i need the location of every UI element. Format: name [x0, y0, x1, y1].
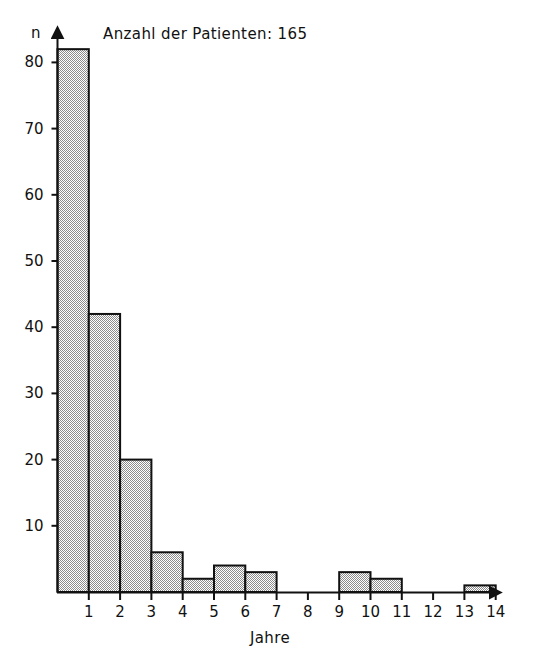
y-tick-label: 80 [10, 55, 44, 70]
x-tick-label: 11 [385, 605, 419, 620]
y-tick-label: 60 [10, 188, 44, 203]
x-tick-label: 12 [416, 605, 450, 620]
x-tick-label: 4 [166, 605, 200, 620]
x-tick-label: 10 [354, 605, 388, 620]
bars-group [58, 49, 496, 592]
y-tick-label: 30 [10, 386, 44, 401]
bar [151, 552, 182, 592]
bar [214, 566, 245, 592]
bar [183, 579, 214, 592]
y-tick-label: 40 [10, 320, 44, 335]
y-tick-label: 70 [10, 122, 44, 137]
x-tick-label: 3 [134, 605, 168, 620]
plot-area [0, 0, 540, 667]
bar [120, 460, 151, 592]
bar [89, 314, 120, 592]
histogram-figure: Anzahl der Patienten: 165 n Jahre 102030… [0, 0, 540, 667]
bar [58, 49, 89, 592]
x-tick-label: 7 [260, 605, 294, 620]
x-tick-label: 8 [291, 605, 325, 620]
x-tick-label: 5 [197, 605, 231, 620]
bar [339, 572, 370, 592]
x-tick-label: 9 [322, 605, 356, 620]
x-tick-label: 13 [447, 605, 481, 620]
bar [464, 585, 495, 592]
y-tick-label: 50 [10, 254, 44, 269]
y-tick-label: 20 [10, 453, 44, 468]
x-tick-label: 2 [103, 605, 137, 620]
x-tick-label: 1 [72, 605, 106, 620]
y-tick-label: 10 [10, 519, 44, 534]
x-tick-label: 6 [228, 605, 262, 620]
x-tick-label: 14 [479, 605, 513, 620]
bar [371, 579, 402, 592]
bar [245, 572, 276, 592]
